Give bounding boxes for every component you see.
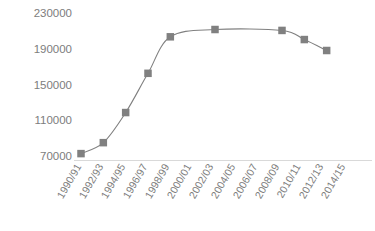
data-point-marker	[278, 27, 286, 35]
data-point-marker	[122, 109, 130, 117]
y-axis-tick-label: 230000	[8, 8, 72, 20]
data-point-marker	[323, 47, 331, 55]
series-markers	[77, 26, 330, 158]
x-axis-labels: 1990/91 1992/93 1994/95 1996/97 1998/99 …	[0, 162, 375, 231]
series-line-svg	[74, 8, 372, 161]
y-axis-tick-label: 190000	[8, 44, 72, 56]
data-point-marker	[100, 139, 108, 147]
data-point-marker	[167, 33, 175, 41]
plot-area	[74, 8, 372, 161]
data-point-marker	[77, 150, 85, 158]
series-line	[81, 29, 327, 154]
y-axis-tick-label: 70000	[8, 151, 72, 163]
data-point-marker	[211, 26, 219, 34]
data-point-marker	[144, 70, 152, 78]
chart-title	[0, 0, 375, 1]
y-axis-tick-label: 110000	[8, 115, 72, 127]
y-axis-tick-label: 150000	[8, 80, 72, 92]
data-point-marker	[301, 36, 309, 44]
line-chart: 230000 190000 150000 110000 70000 1990/9…	[0, 0, 375, 231]
